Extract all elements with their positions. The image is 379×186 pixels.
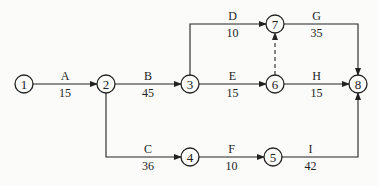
node-label: 3 [187, 77, 194, 92]
node-label: 8 [355, 77, 362, 92]
activity-duration-b: 45 [142, 86, 154, 100]
node-label: 2 [103, 77, 110, 92]
node-7: 7 [266, 15, 284, 33]
activity-duration-a: 15 [59, 86, 71, 100]
node-label: 6 [272, 77, 279, 92]
node-label: 4 [187, 150, 194, 165]
node-8: 8 [349, 75, 367, 93]
activity-duration-h: 15 [311, 86, 323, 100]
activity-arrow-i [282, 93, 358, 157]
activity-duration-e: 15 [227, 86, 239, 100]
node-5: 5 [264, 148, 282, 166]
activity-duration-f: 10 [226, 159, 238, 173]
node-2: 2 [97, 75, 115, 93]
activity-name-a: A [61, 69, 70, 83]
activity-name-e: E [229, 69, 236, 83]
activity-name-f: F [228, 142, 235, 156]
activity-duration-g: 35 [311, 26, 323, 40]
activity-duration-d: 10 [227, 26, 239, 40]
node-label: 5 [270, 150, 277, 165]
activity-name-b: B [144, 69, 152, 83]
activity-name-c: C [144, 142, 152, 156]
activity-duration-c: 36 [142, 159, 154, 173]
node-label: 1 [21, 77, 28, 92]
activity-name-g: G [312, 9, 321, 23]
activity-duration-i: 42 [305, 159, 317, 173]
node-3: 3 [181, 75, 199, 93]
node-4: 4 [181, 148, 199, 166]
node-6: 6 [266, 75, 284, 93]
activity-name-d: D [228, 9, 237, 23]
activity-name-h: H [312, 69, 321, 83]
node-label: 7 [272, 17, 279, 32]
node-1: 1 [15, 75, 33, 93]
network-diagram: 12345678 A15B45C36D10E15F10G35H15I42 [0, 0, 379, 186]
activity-name-i: I [309, 142, 313, 156]
